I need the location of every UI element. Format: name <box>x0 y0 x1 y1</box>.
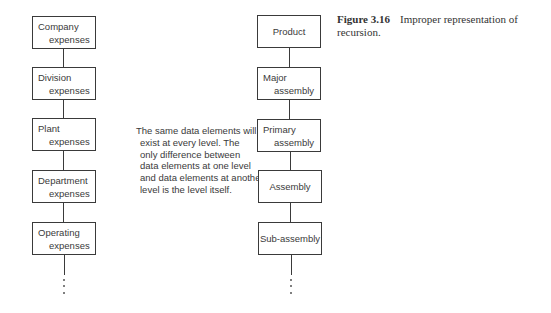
node-label-line2: expenses <box>49 187 90 200</box>
node-assembly: Assembly <box>258 170 322 203</box>
caption-text-line1: Improper representation of <box>400 13 518 25</box>
recursion-note: The same data elements will exist at eve… <box>136 125 264 196</box>
node-label-line1: Operating <box>38 226 80 239</box>
node-label-line1: Plant <box>38 122 60 135</box>
node-label-line2: assembly <box>274 84 314 97</box>
node-label-line1: Assembly <box>259 180 321 193</box>
node-label-line1: Department <box>38 174 88 187</box>
connector <box>64 255 65 275</box>
node-label-line2: expenses <box>49 33 90 46</box>
node-label-line1: Sub-assembly <box>259 232 321 245</box>
node-plant-expenses: Plant expenses <box>32 118 96 151</box>
connector <box>290 152 291 170</box>
node-company-expenses: Company expenses <box>32 16 96 49</box>
node-product: Product <box>257 15 321 48</box>
node-label-line1: Division <box>38 71 71 84</box>
node-label-line2: expenses <box>49 239 90 252</box>
connector <box>63 203 64 222</box>
note-line: level is the level itself. <box>140 184 264 196</box>
connector <box>290 203 291 222</box>
note-line: data elements at one level <box>140 160 264 172</box>
figure-number: Figure 3.16 <box>337 13 390 25</box>
note-line: only difference between <box>140 149 264 161</box>
node-label-line2: assembly <box>274 136 314 149</box>
connector <box>63 151 64 170</box>
node-operating-expenses: Operating expenses <box>32 222 96 255</box>
node-department-expenses: Department expenses <box>32 170 96 203</box>
node-major-assembly: Major assembly <box>257 67 321 100</box>
node-label-line1: Primary <box>263 123 296 136</box>
node-label-line1: Product <box>258 25 320 38</box>
node-division-expenses: Division expenses <box>32 67 96 100</box>
connector <box>63 100 64 118</box>
node-label-line1: Company <box>38 20 79 33</box>
node-label-line2: expenses <box>49 84 90 97</box>
connector <box>289 48 290 67</box>
note-line: The same data elements will <box>136 125 264 137</box>
connector <box>291 255 292 275</box>
node-sub-assembly: Sub-assembly <box>258 222 322 255</box>
connector <box>289 100 290 119</box>
note-line: and data elements at another <box>140 172 264 184</box>
figure-caption: Figure 3.16Improper representation of re… <box>337 13 518 39</box>
note-line: exist at every level. The <box>140 137 264 149</box>
node-primary-assembly: Primary assembly <box>257 119 321 152</box>
node-label-line1: Major <box>263 71 287 84</box>
connector <box>63 49 64 67</box>
node-label-line2: expenses <box>49 135 90 148</box>
caption-text-line2: recursion. <box>337 26 518 39</box>
